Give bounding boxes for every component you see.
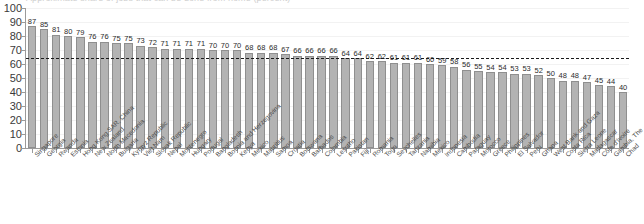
bar-slot[interactable]: 55 — [472, 8, 484, 148]
y-tick-label: 20 — [0, 115, 22, 126]
bar-slot[interactable]: 67 — [279, 8, 291, 148]
bar[interactable] — [136, 46, 144, 148]
bar[interactable] — [293, 56, 301, 148]
x-label-slot: Cambodia — [448, 153, 460, 223]
x-label-slot: Kenya — [231, 153, 243, 223]
bar-slot[interactable]: 50 — [545, 8, 557, 148]
bar-slot[interactable]: 70 — [219, 8, 231, 148]
bar-value-label: 87 — [28, 18, 36, 26]
bar-value-label: 48 — [571, 72, 579, 80]
bar[interactable] — [40, 29, 48, 148]
x-label-slot: Slovak Republic — [147, 153, 159, 223]
y-tick-label: 10 — [0, 129, 22, 140]
bar-slot[interactable]: 76 — [86, 8, 98, 148]
bar-slot[interactable]: 66 — [303, 8, 315, 148]
bar-slot[interactable]: 54 — [484, 8, 496, 148]
x-label-slot: Greece — [484, 153, 496, 223]
x-label-slot: Lesotho — [328, 153, 340, 223]
bar-slot[interactable]: 68 — [267, 8, 279, 148]
bar-value-label: 64 — [354, 50, 362, 58]
bar-slot[interactable]: 66 — [291, 8, 303, 148]
bar-value-label: 70 — [233, 42, 241, 50]
bar[interactable] — [281, 54, 289, 148]
bar-slot[interactable]: 87 — [26, 8, 38, 148]
x-label-slot: Colombia — [316, 153, 328, 223]
bar-slot[interactable]: 71 — [195, 8, 207, 148]
bar-slot[interactable]: 66 — [316, 8, 328, 148]
bar[interactable] — [438, 65, 446, 148]
bar-slot[interactable]: 53 — [509, 8, 521, 148]
bar-slot[interactable]: 85 — [38, 8, 50, 148]
bar-slot[interactable]: 81 — [50, 8, 62, 148]
bar-slot[interactable]: 62 — [364, 8, 376, 148]
bar[interactable] — [185, 49, 193, 148]
x-label-slot: Portugal — [195, 153, 207, 223]
y-tick-label: 30 — [0, 101, 22, 112]
bar-slot[interactable]: 58 — [448, 8, 460, 148]
bar-slot[interactable]: 53 — [521, 8, 533, 148]
bar-value-label: 85 — [40, 21, 48, 29]
bar-value-label: 54 — [498, 64, 506, 72]
y-axis-labels: 0102030405060708090100 — [0, 8, 22, 149]
bar-value-label: 73 — [136, 37, 144, 45]
bar[interactable] — [221, 50, 229, 148]
bar[interactable] — [269, 53, 277, 148]
bar-slot[interactable]: 61 — [388, 8, 400, 148]
bar[interactable] — [366, 61, 374, 148]
bar[interactable] — [305, 56, 313, 148]
bar[interactable] — [378, 61, 386, 148]
x-label-slot: Philippines — [496, 153, 508, 223]
x-label-slot: Samoa — [267, 153, 279, 223]
bar-slot[interactable]: 70 — [207, 8, 219, 148]
bar[interactable] — [354, 58, 362, 148]
x-label-slot: Romania — [364, 153, 376, 223]
bar-slot[interactable]: 56 — [460, 8, 472, 148]
bar-value-label: 68 — [245, 44, 253, 52]
bar-value-label: 71 — [185, 40, 193, 48]
bar[interactable] — [257, 53, 265, 148]
bar-slot[interactable]: 70 — [231, 8, 243, 148]
bar-value-label: 66 — [329, 47, 337, 55]
bar-slot[interactable]: 59 — [436, 8, 448, 148]
x-label-slot: West Bank and Gaza — [545, 153, 557, 223]
bar[interactable] — [209, 50, 217, 148]
bar-slot[interactable]: 79 — [74, 8, 86, 148]
x-label-slot: Hong Kong SAR, China — [74, 153, 86, 223]
bar-value-label: 55 — [474, 63, 482, 71]
bar-slot[interactable]: 48 — [557, 8, 569, 148]
x-label-slot: Singapore — [26, 153, 38, 223]
x-label-slot: Madagascar — [581, 153, 593, 223]
bar-value-label: 68 — [257, 44, 265, 52]
bar[interactable] — [76, 37, 84, 148]
bar-slot[interactable]: 64 — [340, 8, 352, 148]
bar-slot[interactable]: 64 — [352, 8, 364, 148]
bar-value-label: 71 — [161, 40, 169, 48]
bar-slot[interactable]: 61 — [400, 8, 412, 148]
bar[interactable] — [64, 36, 72, 148]
x-label-slot: Morocco — [472, 153, 484, 223]
x-label-slot: Mauritius — [255, 153, 267, 223]
bar[interactable] — [28, 26, 36, 148]
bar-slot[interactable]: 66 — [328, 8, 340, 148]
x-label-slot: Namibia — [412, 153, 424, 223]
x-label-slot: Kyrgyz Republic — [123, 153, 135, 223]
bar-slot[interactable]: 44 — [605, 8, 617, 148]
x-label-slot: Georgia — [38, 153, 50, 223]
bar-slot[interactable]: 62 — [376, 8, 388, 148]
bar[interactable] — [450, 67, 458, 148]
x-label-slot: Togo — [376, 153, 388, 223]
bar[interactable] — [402, 63, 410, 148]
bar-slot[interactable]: 52 — [533, 8, 545, 148]
bar-slot[interactable]: 54 — [496, 8, 508, 148]
bar-slot[interactable]: 61 — [412, 8, 424, 148]
y-tick-label: 0 — [0, 143, 22, 154]
bar-slot[interactable]: 80 — [62, 8, 74, 148]
x-label-slot: Viet Nam — [135, 153, 147, 223]
x-label-slot: North Macedonia — [98, 153, 110, 223]
bar-value-label: 81 — [52, 26, 60, 34]
x-label-slot: Mexico — [243, 153, 255, 223]
bar[interactable] — [161, 49, 169, 148]
y-tick-label: 50 — [0, 73, 22, 84]
bar-slot[interactable]: 60 — [424, 8, 436, 148]
